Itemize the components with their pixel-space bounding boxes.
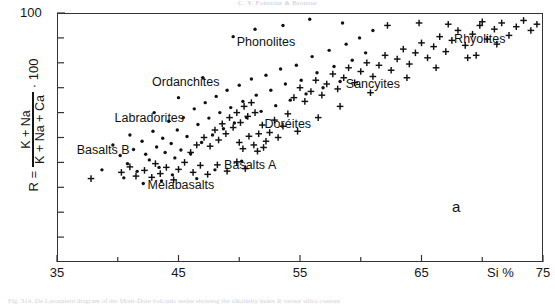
page-header-text: C. Y. Fontaine & Brousse	[0, 0, 555, 6]
annotation-rhyolites: Rhyolites	[454, 32, 505, 46]
y-axis-denominator: K + Na + Ca	[34, 92, 47, 167]
x-tick-label-55: 55	[293, 265, 307, 280]
x-tick-label-35: 35	[50, 265, 64, 280]
y-axis-title: R = K + Na K + Na + Ca · 100	[16, 0, 50, 250]
figure-caption: Fig. 314. De Larouziere diagram of the M…	[8, 297, 548, 304]
annotation-sancyites: Sancyites	[346, 77, 400, 91]
x-tick-label-75: 75	[536, 265, 550, 280]
y-axis-numerator: K + Na	[20, 107, 33, 152]
y-axis-r-equals: R =	[26, 171, 41, 192]
plot-frame	[57, 13, 543, 262]
panel-label: a	[452, 198, 460, 215]
x-tick-label-65: 65	[414, 265, 428, 280]
annotation-basalts-b: Basalts B	[77, 143, 130, 157]
annotation-melabasalts: Melabasalts	[148, 178, 215, 192]
annotation-labradorites: Labradorites	[115, 111, 185, 125]
annotation-basalts-a: Basalts A	[224, 158, 276, 172]
annotation-dor-ites: Doréites	[265, 117, 312, 131]
y-axis-multiplier: · 100	[26, 58, 41, 88]
y-axis-fraction: K + Na K + Na + Ca	[20, 92, 47, 167]
annotation-ordanchites: Ordanchites	[152, 75, 219, 89]
x-axis-title: Si %	[487, 265, 514, 280]
x-tick-label-45: 45	[171, 265, 185, 280]
annotation-phonolites: Phonolites	[237, 35, 295, 49]
